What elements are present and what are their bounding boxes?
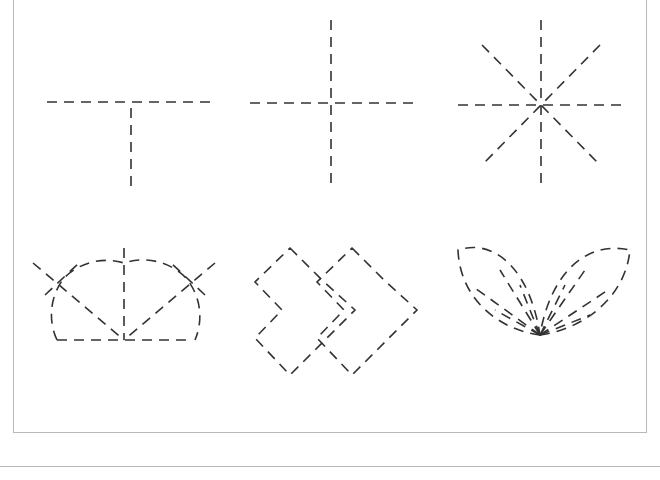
arch-fan-shape bbox=[33, 248, 215, 340]
cross-shape bbox=[250, 20, 413, 188]
leaf-pair-shape bbox=[458, 248, 630, 335]
t-junction-shape bbox=[47, 102, 211, 188]
starburst-shape bbox=[458, 20, 625, 190]
drawing-canvas bbox=[0, 0, 660, 480]
double-chevron-shape bbox=[255, 248, 417, 375]
